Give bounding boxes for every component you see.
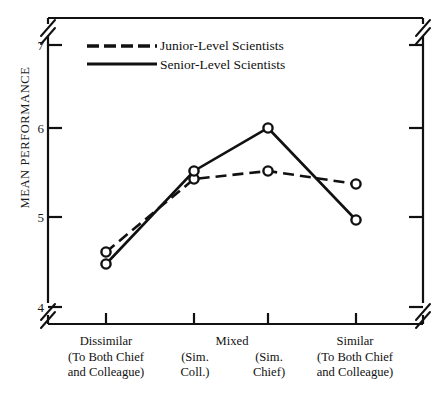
series-senior-level-scientists <box>101 123 360 268</box>
legend-sample-lines <box>87 46 157 64</box>
senior-marker-2 <box>189 166 198 175</box>
plot-area <box>0 0 438 397</box>
break-bottom-left-slash-2 <box>41 312 55 328</box>
senior-marker-4 <box>351 215 360 224</box>
senior-marker-1 <box>101 259 110 268</box>
senior-line <box>106 128 356 264</box>
junior-marker-3 <box>263 166 272 175</box>
break-bottom-right-slash-2 <box>416 312 430 328</box>
series-junior-level-scientists <box>101 166 360 256</box>
x-tick-marks <box>106 313 356 324</box>
junior-line <box>106 171 356 252</box>
chart-figure: MEAN PERFORMANCE 7 6 5 4 Junior-Level Sc… <box>0 0 438 397</box>
junior-marker-1 <box>101 247 110 256</box>
junior-marker-4 <box>351 179 360 188</box>
senior-marker-3 <box>263 123 272 132</box>
